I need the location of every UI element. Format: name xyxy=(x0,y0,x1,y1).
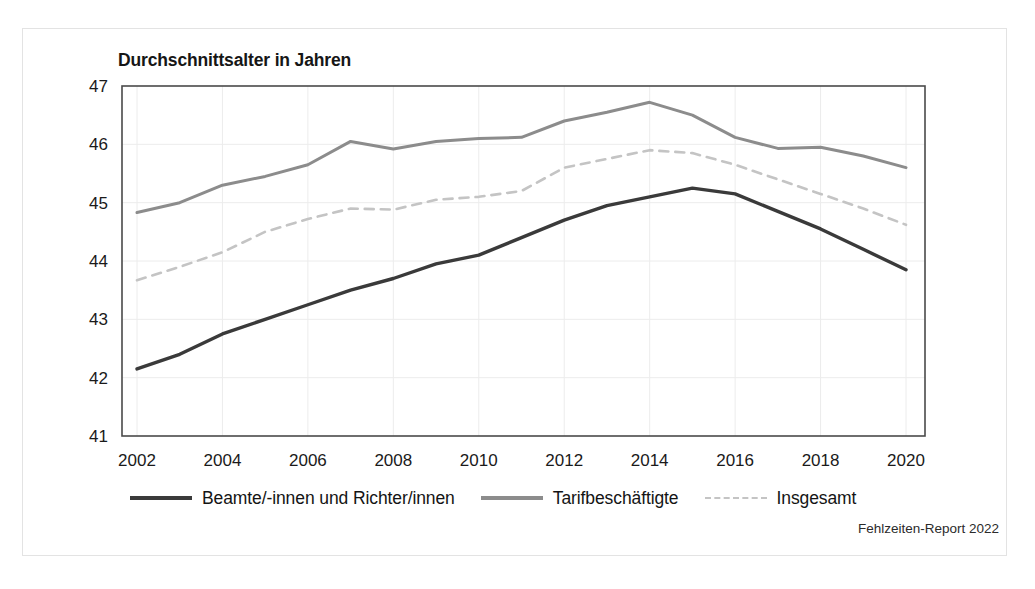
data-series xyxy=(137,102,906,369)
legend-label: Beamte/-innen und Richter/innen xyxy=(202,488,455,509)
chart-legend: Beamte/-innen und Richter/innenTarifbesc… xyxy=(130,484,930,512)
grid-lines xyxy=(122,86,925,436)
x-axis-tick-label: 2018 xyxy=(802,451,840,470)
legend-swatch-icon xyxy=(481,496,543,500)
legend-label: Tarifbeschäftigte xyxy=(553,488,679,509)
series-line-2 xyxy=(137,102,906,212)
x-axis-tick-label: 2002 xyxy=(118,451,156,470)
legend-item: Tarifbeschäftigte xyxy=(481,488,679,509)
series-line-1 xyxy=(137,188,906,369)
figure-container: Durchschnittsalter in Jahren 41424344454… xyxy=(0,0,1035,589)
y-axis-tick-label: 41 xyxy=(89,427,108,446)
legend-label: Insgesamt xyxy=(777,488,857,509)
y-axis-tick-label: 44 xyxy=(89,252,108,271)
x-axis-tick-label: 2010 xyxy=(460,451,498,470)
x-axis-tick-label: 2016 xyxy=(716,451,754,470)
x-axis-tick-labels: 2002200420062008201020122014201620182020 xyxy=(118,451,925,470)
y-axis-tick-label: 43 xyxy=(89,310,108,329)
x-axis-tick-label: 2008 xyxy=(374,451,412,470)
x-axis-tick-label: 2006 xyxy=(289,451,327,470)
y-axis-tick-label: 45 xyxy=(89,194,108,213)
x-axis-tick-label: 2020 xyxy=(887,451,925,470)
x-axis-tick-label: 2014 xyxy=(631,451,669,470)
x-axis-tick-label: 2004 xyxy=(204,451,242,470)
legend-swatch-icon xyxy=(705,497,767,499)
x-axis-tick-label: 2012 xyxy=(545,451,583,470)
y-axis-tick-label: 42 xyxy=(89,369,108,388)
legend-item: Insgesamt xyxy=(705,488,857,509)
legend-swatch-icon xyxy=(130,496,192,500)
legend-item: Beamte/-innen und Richter/innen xyxy=(130,488,455,509)
y-axis-tick-labels: 41424344454647 xyxy=(89,77,108,446)
y-axis-tick-label: 46 xyxy=(89,135,108,154)
y-axis-tick-label: 47 xyxy=(89,77,108,96)
source-note: Fehlzeiten-Report 2022 xyxy=(858,521,999,536)
